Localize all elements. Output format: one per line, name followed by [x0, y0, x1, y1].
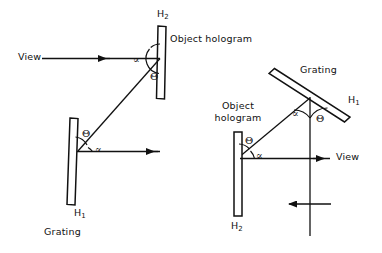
left-h1-plate — [67, 118, 78, 205]
left-view-label: View — [18, 51, 41, 62]
left-object-hologram-label: Object hologram — [170, 33, 252, 44]
left-h1-alpha-label: ∝ — [95, 144, 102, 155]
right-h1-label: H1 — [348, 94, 360, 109]
left-h2-plate — [157, 26, 167, 99]
right-h1-theta-label: Θ — [316, 113, 324, 124]
right-object-hologram-label-line1: Object — [199, 100, 277, 111]
right-h2-alpha-arc — [251, 151, 255, 159]
left-h1-label: H1 — [74, 207, 86, 222]
right-h2-label: H2 — [231, 220, 243, 235]
right-grating-label: Grating — [300, 64, 337, 75]
right-h2-alpha-label: ∝ — [256, 150, 263, 161]
left-h2-alpha-label: ∝ — [133, 54, 140, 65]
right-h1-alpha-label: ∝ — [292, 108, 299, 119]
figure-canvas: H2 Object hologram View ∝ Θ Θ ∝ H1 Grati… — [0, 0, 382, 253]
left-h2-theta-label: Θ — [150, 71, 158, 82]
left-grating-label: Grating — [44, 226, 81, 237]
right-h2-theta-label: Θ — [245, 135, 253, 146]
left-h2-label: H2 — [157, 8, 169, 23]
left-h1-theta-label: Θ — [82, 128, 90, 139]
right-view-label: View — [336, 151, 359, 162]
right-object-hologram-label-line2: hologram — [199, 112, 277, 123]
